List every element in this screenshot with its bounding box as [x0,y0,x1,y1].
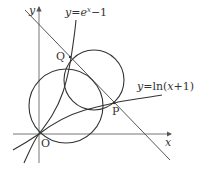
ln-curve [13,95,162,150]
point-P [113,102,115,104]
diagram-canvas: y x O Q P y=ex−1 y=ln(x+1) [0,0,209,177]
exp-curve-label: y=ex−1 [65,7,107,18]
point-Q [69,56,71,58]
ln-curve-label: y=ln(x+1) [137,81,194,92]
x-axis-label: x [165,137,171,148]
point-P-label: P [112,106,119,117]
y-axis-label: y [29,5,35,16]
circle-small [64,50,124,110]
point-Q-label: Q [56,51,65,62]
origin-label: O [41,138,50,149]
